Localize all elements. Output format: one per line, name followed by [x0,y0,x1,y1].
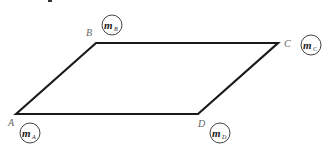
vertex-label-c: C [284,38,291,49]
mass-c-symbol: m [303,39,312,51]
mass-a-symbol: m [22,127,31,139]
parallelogram-shape [16,43,278,114]
crop-artifact [48,0,52,2]
mass-c-badge: m C [301,35,321,55]
vertex-label-b: B [86,27,92,38]
mass-b-badge: m B [102,15,122,35]
parallelogram-diagram: B C A D m B m C m A m D [0,0,331,155]
mass-d-subscript: D [221,134,227,140]
mass-d-badge: m D [210,123,230,143]
mass-d-symbol: m [212,127,221,139]
mass-a-subscript: A [31,134,36,140]
mass-b-symbol: m [104,19,113,31]
mass-b-subscript: B [114,26,118,32]
mass-a-badge: m A [20,123,40,143]
vertex-label-a: A [7,117,15,128]
vertex-label-d: D [197,118,206,129]
